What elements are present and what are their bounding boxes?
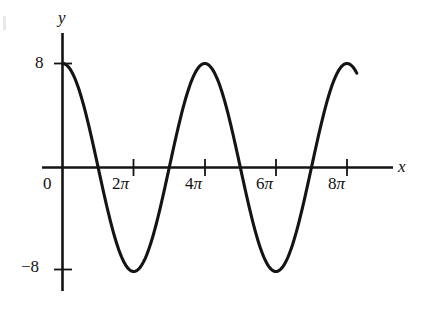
x-tick-6pi-symbol: π [265,174,274,193]
y-tick-label-8: 8 [35,54,44,71]
x-tick-label-8pi: 8π [328,175,345,192]
x-tick-label-2pi: 2π [112,175,129,192]
x-tick-label-0: 0 [43,175,52,192]
x-tick-2pi-symbol: π [121,174,130,193]
x-tick-4pi-coefficient: 4 [185,174,194,193]
x-tick-2pi-coefficient: 2 [112,174,121,193]
x-axis-label: x [398,158,406,175]
x-tick-label-6pi: 6π [256,175,273,192]
plot-canvas [0,0,422,313]
x-tick-6pi-coefficient: 6 [256,174,265,193]
x-tick-8pi-coefficient: 8 [328,174,337,193]
x-tick-label-4pi: 4π [185,175,202,192]
x-tick-4pi-symbol: π [194,174,203,193]
y-axis-label: y [58,9,66,26]
y-tick-label-minus-8: −8 [21,258,39,275]
cosine-graph-figure: y x 8 −8 0 2π 4π 6π 8π [0,0,422,313]
x-tick-8pi-symbol: π [337,174,346,193]
